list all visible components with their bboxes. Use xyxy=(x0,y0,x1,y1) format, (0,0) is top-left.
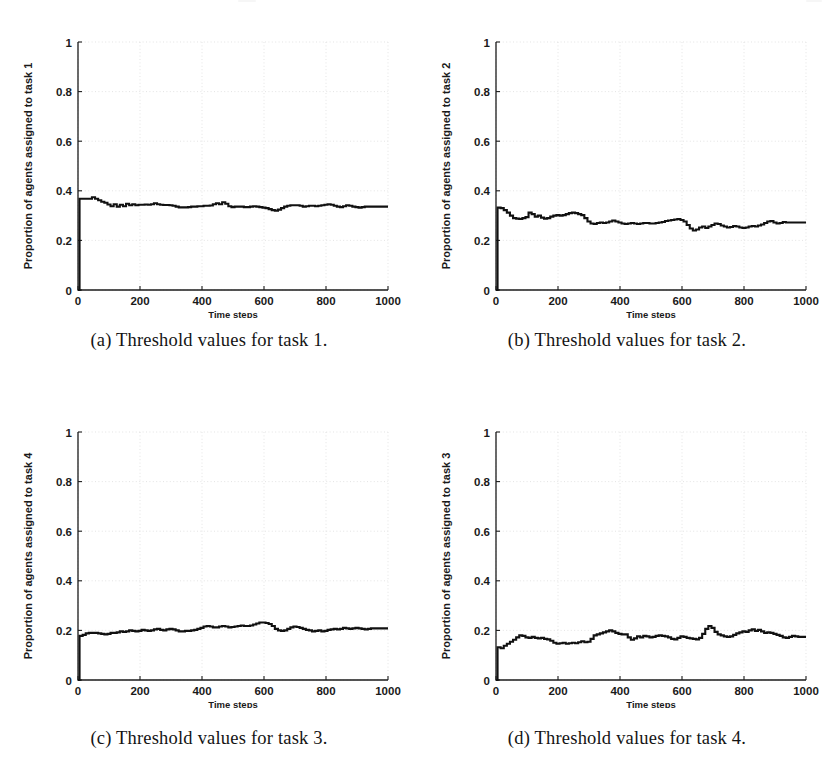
y-tick-label: 0.4 xyxy=(56,575,73,587)
y-tick-label: 0.6 xyxy=(474,136,490,148)
x-tick-label: 600 xyxy=(672,295,691,307)
gridlines-d xyxy=(496,432,806,680)
x-tick-label: 0 xyxy=(493,295,499,307)
y-tick-label: 0.8 xyxy=(56,476,73,488)
y-tick-label: 0 xyxy=(484,675,490,687)
x-tick-label: 200 xyxy=(548,685,567,697)
x-tick-label: 800 xyxy=(734,295,753,307)
x-axis-title-a: Time steps xyxy=(208,309,257,318)
y-tick-labels-b: 00.20.40.60.81 xyxy=(474,37,491,297)
y-axis-title-d: Proportion of agents assigned to task 3 xyxy=(440,453,452,660)
x-tick-labels-d: 02004006008001000 xyxy=(493,685,819,697)
figure-panel-grid: 00.20.40.60.8102004006008001000Time step… xyxy=(0,0,836,781)
x-tick-label: 1000 xyxy=(375,295,401,307)
y-tick-label: 0.4 xyxy=(56,185,73,197)
y-tick-label: 0.8 xyxy=(474,476,491,488)
y-tick-label: 0.6 xyxy=(56,526,72,538)
y-tick-labels-c: 00.20.40.60.81 xyxy=(56,427,73,687)
x-tick-label: 400 xyxy=(610,685,629,697)
x-tick-labels-b: 02004006008001000 xyxy=(493,295,819,307)
x-tick-label: 600 xyxy=(254,295,273,307)
y-tick-label: 0.8 xyxy=(474,86,491,98)
figure-panel-d: 00.20.40.60.8102004006008001000Time step… xyxy=(418,390,836,781)
y-tick-label: 0.4 xyxy=(474,185,491,197)
axis-spines-a xyxy=(78,42,388,290)
gridlines-b xyxy=(496,42,806,290)
x-tick-label: 600 xyxy=(672,685,691,697)
x-tick-label: 1000 xyxy=(793,685,819,697)
figure-panel-a: 00.20.40.60.8102004006008001000Time step… xyxy=(0,0,418,390)
x-tick-label: 0 xyxy=(75,685,81,697)
figure-panel-c: 00.20.40.60.8102004006008001000Time step… xyxy=(0,390,418,781)
figure-panel-b: 00.20.40.60.8102004006008001000Time step… xyxy=(418,0,836,390)
y-tick-label: 0.6 xyxy=(56,136,72,148)
y-tick-label: 0.2 xyxy=(56,625,72,637)
x-tick-label: 1000 xyxy=(375,685,401,697)
x-tick-label: 0 xyxy=(75,295,81,307)
plot-area-a: 00.20.40.60.8102004006008001000Time step… xyxy=(0,0,418,318)
tick-marks-b xyxy=(496,42,806,290)
data-trace-d xyxy=(496,626,806,680)
x-tick-label: 0 xyxy=(493,685,499,697)
y-tick-label: 1 xyxy=(484,37,491,49)
y-tick-label: 1 xyxy=(66,37,73,49)
gridlines-a xyxy=(78,42,388,290)
x-tick-label: 800 xyxy=(316,295,335,307)
x-tick-label: 200 xyxy=(130,295,149,307)
tick-marks-c xyxy=(78,432,388,680)
y-tick-labels-d: 00.20.40.60.81 xyxy=(474,427,491,687)
y-tick-label: 0.4 xyxy=(474,575,491,587)
x-axis-title-c: Time steps xyxy=(208,699,257,708)
x-tick-label: 200 xyxy=(130,685,149,697)
x-tick-label: 200 xyxy=(548,295,567,307)
y-tick-labels-a: 00.20.40.60.81 xyxy=(56,37,73,297)
axis-spines-d xyxy=(496,432,806,680)
y-axis-title-b: Proportion of agents assigned to task 2 xyxy=(440,63,452,270)
axis-spines-b xyxy=(496,42,806,290)
x-tick-label: 400 xyxy=(610,295,629,307)
panel-caption-c: (c) Threshold values for task 3. xyxy=(0,728,418,749)
x-tick-label: 400 xyxy=(192,685,211,697)
x-axis-title-d: Time steps xyxy=(626,699,675,708)
y-tick-label: 0.8 xyxy=(56,86,73,98)
tick-marks-d xyxy=(496,432,806,680)
y-tick-label: 0 xyxy=(66,285,72,297)
y-tick-label: 0 xyxy=(484,285,490,297)
y-tick-label: 0 xyxy=(66,675,72,687)
y-tick-label: 1 xyxy=(484,427,491,439)
x-tick-label: 600 xyxy=(254,685,273,697)
panel-caption-a: (a) Threshold values for task 1. xyxy=(0,330,418,351)
y-axis-title-a: Proportion of agents assigned to task 1 xyxy=(22,63,34,270)
x-tick-labels-a: 02004006008001000 xyxy=(75,295,401,307)
x-tick-label: 800 xyxy=(316,685,335,697)
x-tick-label: 800 xyxy=(734,685,753,697)
x-tick-labels-c: 02004006008001000 xyxy=(75,685,401,697)
data-trace-b xyxy=(496,208,806,290)
data-trace-c xyxy=(78,622,388,680)
data-trace-a xyxy=(78,197,388,290)
y-axis-title-c: Proportion of agents assigned to task 4 xyxy=(22,452,34,659)
plot-area-c: 00.20.40.60.8102004006008001000Time step… xyxy=(0,390,418,708)
panel-caption-b: (b) Threshold values for task 2. xyxy=(418,330,836,351)
x-tick-label: 400 xyxy=(192,295,211,307)
x-tick-label: 1000 xyxy=(793,295,819,307)
y-tick-label: 0.2 xyxy=(474,625,490,637)
y-tick-label: 0.2 xyxy=(474,235,490,247)
axis-spines-c xyxy=(78,432,388,680)
tick-marks-a xyxy=(78,42,388,290)
y-tick-label: 1 xyxy=(66,427,73,439)
y-tick-label: 0.2 xyxy=(56,235,72,247)
plot-area-d: 00.20.40.60.8102004006008001000Time step… xyxy=(418,390,836,708)
gridlines-c xyxy=(78,432,388,680)
x-axis-title-b: Time steps xyxy=(626,309,675,318)
y-tick-label: 0.6 xyxy=(474,526,490,538)
panel-caption-d: (d) Threshold values for task 4. xyxy=(418,728,836,749)
plot-area-b: 00.20.40.60.8102004006008001000Time step… xyxy=(418,0,836,318)
